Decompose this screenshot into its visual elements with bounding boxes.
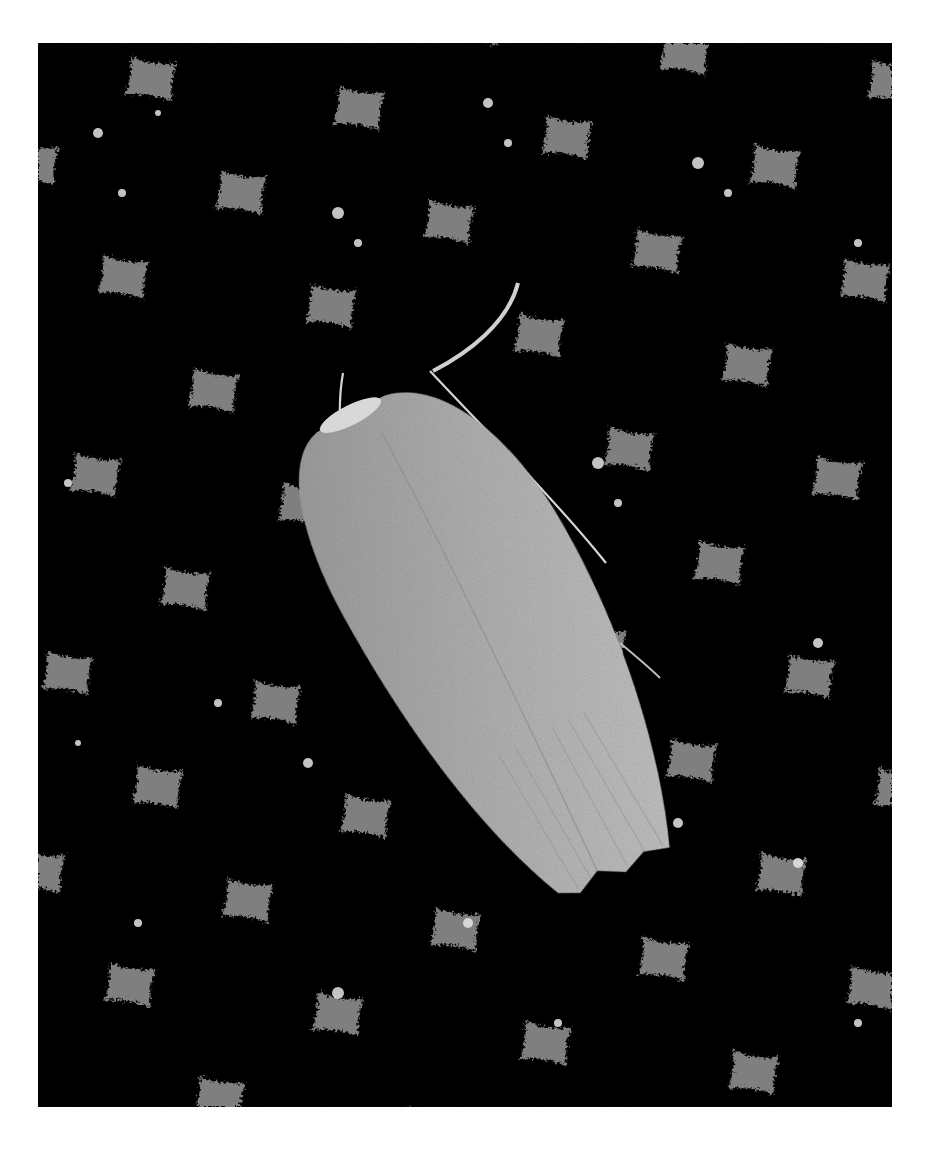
photo-canvas (38, 43, 892, 1107)
moth-on-honeycomb-photo (38, 43, 892, 1107)
